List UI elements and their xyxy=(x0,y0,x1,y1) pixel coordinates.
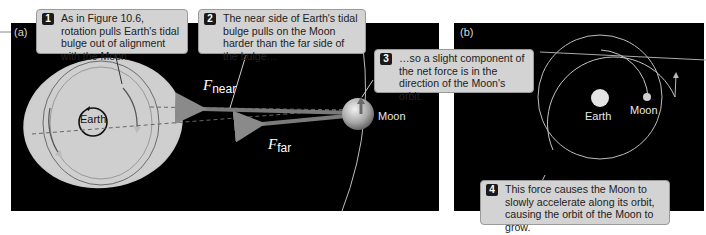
callout-number-4: 4 xyxy=(486,184,498,196)
moon-label-b: Moon xyxy=(630,104,658,116)
earth-b xyxy=(591,89,609,107)
callout-1: 1 As in Figure 10.6, rotation pulls Eart… xyxy=(36,9,188,54)
force-near-label: Fnear xyxy=(203,77,236,96)
panel-b-label: (b) xyxy=(460,26,473,38)
leader-3 xyxy=(362,80,373,97)
callout-3: 3 …so a slight component of the net forc… xyxy=(374,49,534,93)
orbit-growth-arrow xyxy=(675,75,676,97)
force-far-label: Ffar xyxy=(268,136,291,155)
callout-2: 2 The near side of Earth's tidal bulge p… xyxy=(198,9,366,54)
callout-number-1: 1 xyxy=(42,13,54,25)
earth-label-b: Earth xyxy=(585,110,611,122)
callout-number-3: 3 xyxy=(380,53,392,65)
earth-label-a: Earth xyxy=(80,113,106,125)
panel-a-label: (a) xyxy=(14,26,27,38)
moon-label-a: Moon xyxy=(378,110,406,122)
callout-4: 4 This force causes the Moon to slowly a… xyxy=(480,180,670,225)
moon-b xyxy=(643,93,651,101)
callout-number-2: 2 xyxy=(204,13,216,25)
